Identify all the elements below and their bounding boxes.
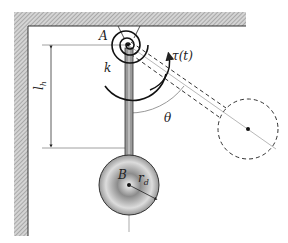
displaced-pendulum (125, 42, 278, 159)
label-theta: θ (164, 112, 171, 124)
label-spring-k: k (104, 62, 111, 74)
label-pivot-a: A (99, 30, 108, 42)
displaced-center-dot (246, 127, 250, 131)
label-radius: rd (138, 172, 149, 187)
torque-arrow-icon (150, 56, 170, 90)
label-length: lh (33, 81, 48, 90)
pendulum-diagram (0, 0, 288, 243)
rod (125, 48, 133, 156)
label-bob-b: B (118, 169, 127, 181)
length-dimension (42, 45, 128, 148)
pivot-dot (126, 43, 129, 46)
displaced-axis-line (128, 45, 276, 149)
label-torque: τ(t) (172, 50, 193, 62)
